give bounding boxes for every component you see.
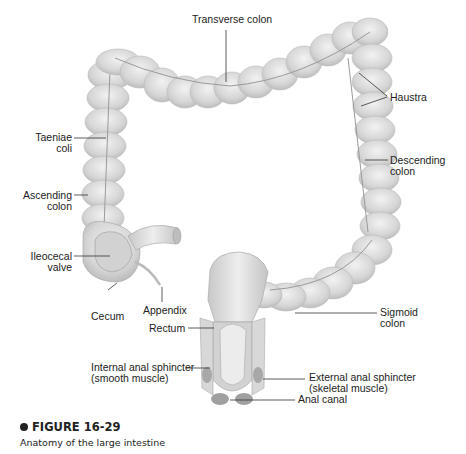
label-sigmoid-colon: Sigmoid colon — [380, 307, 418, 329]
label-cecum: Cecum — [91, 311, 124, 322]
label-internal-anal-sphincter: Internal anal sphincter (smooth muscle) — [91, 362, 194, 384]
descending-colon-shape — [348, 44, 401, 240]
label-external-anal-sphincter: External anal sphincter (skeletal muscle… — [309, 372, 416, 394]
label-transverse-colon: Transverse colon — [192, 14, 272, 25]
cecum-shape — [83, 221, 181, 285]
bullet-icon — [20, 423, 28, 431]
label-taeniae-coli: Taeniae coli — [30, 132, 72, 154]
label-ileocecal-valve: Ileocecal valve — [20, 251, 72, 273]
figure-number-text: FIGURE 16-29 — [32, 420, 120, 434]
label-descending-colon: Descending colon — [390, 155, 445, 177]
ascending-colon-shape — [82, 60, 132, 232]
label-ascending-colon: Ascending colon — [10, 190, 72, 212]
label-appendix: Appendix — [143, 305, 187, 316]
transverse-colon-shape — [96, 18, 388, 108]
label-rectum: Rectum — [149, 323, 185, 334]
label-anal-canal: Anal canal — [298, 394, 347, 405]
figure-number: FIGURE 16-29 — [20, 420, 120, 434]
figure-caption: Anatomy of the large intestine — [20, 437, 165, 448]
label-haustra: Haustra — [390, 92, 427, 103]
